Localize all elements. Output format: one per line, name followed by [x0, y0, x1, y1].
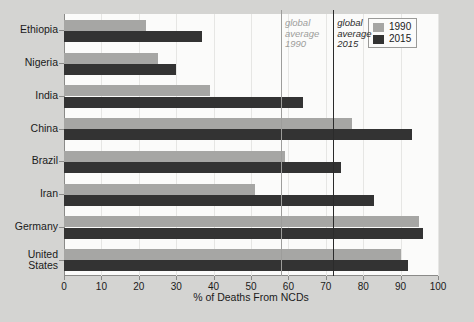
x-tick [326, 276, 327, 280]
x-tick [288, 276, 289, 280]
bar-1990-germany [64, 216, 419, 227]
plot-area [64, 14, 438, 276]
bar-1990-ethiopia [64, 20, 146, 31]
bar-2015-china [64, 129, 412, 140]
category-label-ethiopia: Ethiopia [0, 24, 58, 35]
category-label-germany: Germany [0, 221, 58, 232]
x-axis-title: % of Deaths From NCDs [64, 291, 438, 303]
x-tick [101, 276, 102, 280]
category-label-iran: Iran [0, 188, 58, 199]
bar-1990-brazil [64, 151, 285, 162]
category-label-china: China [0, 123, 58, 134]
reference-line-global-average-1990 [281, 10, 282, 276]
bar-row [64, 112, 438, 145]
x-tick [401, 276, 402, 280]
bar-row [64, 47, 438, 80]
reference-label-global-average-2015: globalaverage2015 [337, 18, 381, 50]
bar-2015-india [64, 97, 303, 108]
x-tick [139, 276, 140, 280]
bar-row [64, 80, 438, 113]
bar-row [64, 243, 438, 276]
category-label-nigeria: Nigeria [0, 57, 58, 68]
bar-1990-nigeria [64, 53, 158, 64]
bar-row [64, 178, 438, 211]
category-label-united-states: UnitedStates [0, 249, 58, 271]
ncd-deaths-bar-chart: 0102030405060708090100 % of Deaths From … [0, 0, 474, 322]
x-tick [176, 276, 177, 280]
legend-label-2015: 2015 [389, 34, 411, 44]
category-label-brazil: Brazil [0, 155, 58, 166]
category-label-india: India [0, 90, 58, 101]
x-tick [214, 276, 215, 280]
bar-2015-germany [64, 228, 423, 239]
bar-2015-united-states [64, 260, 408, 271]
bar-1990-china [64, 118, 352, 129]
bar-2015-nigeria [64, 64, 176, 75]
bar-1990-india [64, 85, 210, 96]
bar-2015-ethiopia [64, 31, 202, 42]
grid-line [438, 14, 439, 276]
bar-row [64, 211, 438, 244]
x-tick [438, 276, 439, 280]
x-tick [64, 276, 65, 280]
bar-row [64, 145, 438, 178]
x-tick [251, 276, 252, 280]
bar-2015-iran [64, 195, 374, 206]
x-tick [363, 276, 364, 280]
legend-label-1990: 1990 [389, 22, 411, 32]
bar-2015-brazil [64, 162, 341, 173]
bar-1990-united-states [64, 249, 401, 260]
bar-1990-iran [64, 184, 255, 195]
reference-label-global-average-1990: globalaverage1990 [285, 18, 329, 50]
reference-line-global-average-2015 [333, 10, 334, 276]
